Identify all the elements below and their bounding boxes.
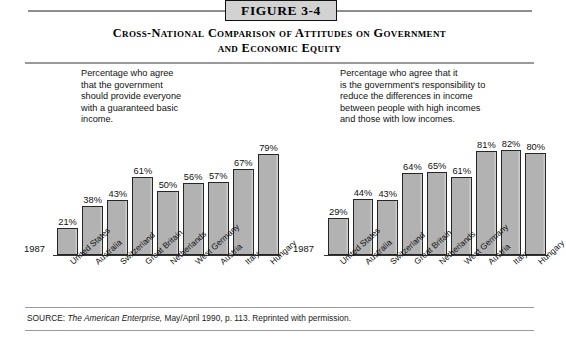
category-slot: Great Britain [400,256,425,300]
source-details: May/April 1990, p. 113. Reprinted with p… [164,313,351,323]
category-slot: Switzerland [105,256,130,300]
bar-rect [328,218,349,255]
category-slot: Italy [231,256,256,300]
bar-rect [258,154,279,255]
bar-value-label: 44% [354,188,373,198]
bar-rect [501,150,522,255]
header-rule-left [28,10,228,12]
bar-slot: 67% [231,127,256,255]
source-divider-rule [25,307,534,308]
chart-caption-right: Percentage who agree that it is the gove… [340,68,552,126]
bar-value-label: 67% [234,158,253,168]
category-slot: Austria [474,256,499,300]
bar-value-label: 21% [58,217,77,227]
figure-title-line-1: Cross-National Comparison of Attitudes o… [113,26,446,40]
category-slot: Austria [206,256,231,300]
chart-panel-right: Percentage who agree that it is the gove… [292,68,554,300]
footer-rule [25,330,534,331]
source-note: SOURCE: The American Enterprise, May/Apr… [27,313,351,323]
category-labels-left: United StatesAustraliaSwitzerlandGreat B… [55,256,281,300]
year-axis-label-right: 1987 [293,243,314,254]
figure-title: Cross-National Comparison of Attitudes o… [0,26,559,56]
bar-chart-right: 1987 29%44%43%64%65%61%81%82%80% United … [292,130,554,300]
bar-value-label: 81% [477,140,496,150]
year-axis-label-left: 1987 [24,243,45,254]
bar-rect [525,153,546,255]
bar-value-label: 61% [134,166,153,176]
bar-value-label: 61% [452,166,471,176]
bar-slot: 79% [256,127,281,255]
figure-number-badge: FIGURE 3-4 [225,0,337,21]
bar-slot: 80% [523,127,548,255]
bar-value-label: 56% [184,172,203,182]
bar-slot: 43% [375,127,400,255]
category-labels-right: United StatesAustraliaSwitzerlandGreat B… [326,256,548,300]
bar-value-label: 82% [502,139,521,149]
bar-value-label: 29% [329,207,348,217]
category-slot: Australia [80,256,105,300]
category-slot: West Germany [449,256,474,300]
category-slot: Italy [499,256,524,300]
bar-value-label: 80% [526,142,545,152]
category-slot: Switzerland [375,256,400,300]
chart-caption-left: Percentage who agree that the government… [81,68,259,126]
bar-value-label: 79% [259,143,278,153]
bar-chart-left: 1987 21%38%43%61%50%56%57%67%79% United … [24,130,289,300]
category-slot: Great Britain [130,256,155,300]
bar-value-label: 38% [83,195,102,205]
category-slot: United States [55,256,80,300]
title-divider-rule [25,62,534,64]
source-publication: The American Enterprise, [68,313,163,323]
source-label: SOURCE: [27,313,65,323]
chart-panel-left: Percentage who agree that the government… [24,68,289,300]
category-slot: West Germany [181,256,206,300]
figure-number-label: FIGURE 3-4 [241,3,321,19]
bar-value-label: 64% [403,162,422,172]
category-slot: Netherlands [425,256,450,300]
header-rule-right [334,10,532,12]
bar-slot: 43% [105,127,130,255]
category-slot: Hungary [523,256,548,300]
category-slot: United States [326,256,351,300]
figure-header: FIGURE 3-4 [0,0,559,22]
bar-slot: 21% [55,127,80,255]
category-slot: Australia [351,256,376,300]
bar-value-label: 65% [428,161,447,171]
figure-title-line-2: and Economic Equity [0,41,559,56]
bar-value-label: 50% [159,180,178,190]
bar-slot: 29% [326,127,351,255]
bar-value-label: 57% [209,171,228,181]
bar-value-label: 43% [108,189,127,199]
category-slot: Netherlands [155,256,180,300]
bar-value-label: 43% [378,189,397,199]
category-slot: Hungary [256,256,281,300]
